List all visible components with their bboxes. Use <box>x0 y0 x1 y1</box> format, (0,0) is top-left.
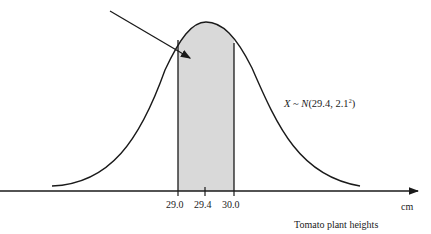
axis-unit: cm <box>401 201 413 212</box>
dist-close: ) <box>352 98 356 109</box>
normal-curve-diagram <box>0 0 431 234</box>
axis-title: Tomato plant heights <box>294 219 378 230</box>
dist-tilde: ~ <box>293 98 299 109</box>
tick-label-30-0: 30.0 <box>222 199 240 210</box>
distribution-label: X ~ N(29.4, 2.12) <box>284 98 355 109</box>
tick-label-29-4: 29.4 <box>194 199 212 210</box>
dist-var: X <box>284 98 290 109</box>
dist-params: (29.4, 2.1 <box>308 98 348 109</box>
tick-label-29-0: 29.0 <box>166 199 184 210</box>
pointer-arrow <box>110 11 190 58</box>
